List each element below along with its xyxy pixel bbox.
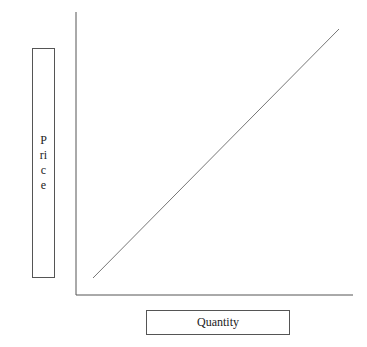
y-axis-label: Price bbox=[39, 133, 49, 193]
plot-area bbox=[0, 0, 367, 347]
y-axis-label-box: Price bbox=[32, 48, 55, 278]
x-axis-label-box: Quantity bbox=[146, 310, 290, 335]
x-axis-label: Quantity bbox=[197, 315, 239, 330]
upward-sloping-line bbox=[93, 29, 339, 278]
